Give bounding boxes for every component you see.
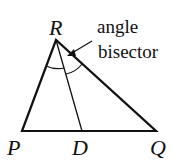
annotation-line2: bisector bbox=[98, 41, 159, 62]
vertex-label-d: D bbox=[71, 135, 88, 160]
angle-arc-right bbox=[66, 64, 82, 74]
vertex-label-r: R bbox=[48, 15, 63, 40]
triangle-diagram: R P D Q angle bisector bbox=[0, 0, 186, 164]
angle-arc-left bbox=[46, 66, 64, 69]
arrow-shaft bbox=[72, 41, 92, 53]
angle-bisector-rd bbox=[56, 40, 82, 131]
vertex-label-q: Q bbox=[150, 135, 166, 160]
vertex-label-p: P bbox=[6, 135, 20, 160]
annotation-line1: angle bbox=[97, 16, 138, 37]
